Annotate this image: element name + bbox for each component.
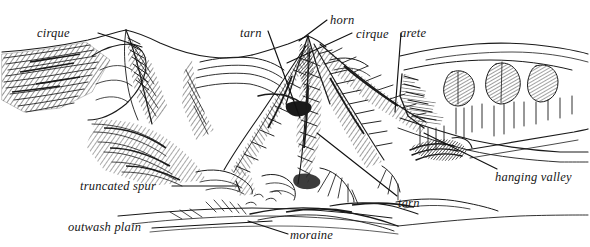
label-hanging-valley: hanging valley bbox=[495, 171, 572, 184]
leader-moraine bbox=[248, 221, 288, 234]
label-tarn-top: tarn bbox=[240, 27, 262, 40]
leader-arete bbox=[395, 33, 401, 112]
label-horn: horn bbox=[330, 14, 354, 27]
label-cirque-center: cirque bbox=[356, 28, 389, 41]
label-outwash-plain: outwash plain bbox=[68, 221, 141, 234]
label-cirque-left: cirque bbox=[37, 27, 70, 40]
glacial-landforms-figure: cirque tarn horn cirque arete hanging va… bbox=[0, 0, 590, 247]
leader-outwash-plain bbox=[152, 221, 272, 228]
label-truncated-spur: truncated spur bbox=[80, 180, 156, 193]
landscape-line-art bbox=[0, 0, 590, 247]
label-arete: arete bbox=[400, 27, 426, 40]
label-tarn-bottom: tarn bbox=[398, 197, 420, 210]
label-moraine: moraine bbox=[290, 229, 333, 242]
